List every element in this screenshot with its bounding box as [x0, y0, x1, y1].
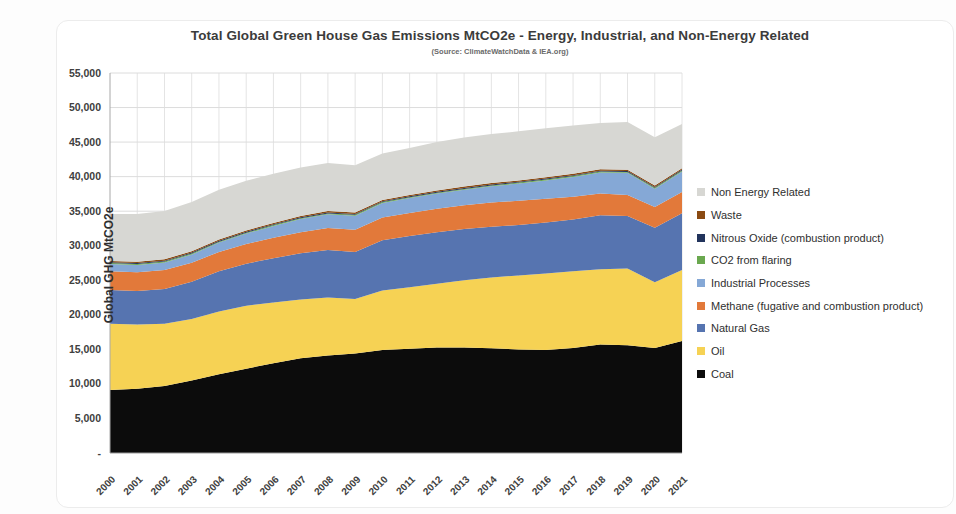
- y-axis-title: Global GHG MtCO2e: [102, 165, 116, 365]
- x-tick-label: 2012: [421, 473, 445, 497]
- legend-label: Oil: [711, 345, 724, 357]
- x-tick-label: 2013: [448, 473, 472, 497]
- legend-swatch-icon: [697, 234, 705, 242]
- legend-swatch-icon: [697, 347, 705, 355]
- y-tick-label: 35,000: [69, 205, 101, 217]
- legend-label: Coal: [711, 368, 734, 380]
- x-tick-label: 2016: [530, 473, 554, 497]
- x-tick-label: 2019: [611, 473, 635, 497]
- legend-swatch-icon: [697, 302, 705, 310]
- y-tick-label: 25,000: [69, 274, 101, 286]
- x-tick-label: 2020: [639, 473, 663, 497]
- legend-label: Industrial Processes: [711, 277, 810, 289]
- legend-swatch-icon: [697, 370, 705, 378]
- legend-swatch-icon: [697, 279, 705, 287]
- legend-label: Non Energy Related: [711, 186, 810, 198]
- x-tick-label: 2010: [366, 473, 390, 497]
- y-tick-label: 45,000: [69, 136, 101, 148]
- x-tick-label: 2002: [148, 473, 172, 497]
- legend-label: Waste: [711, 209, 742, 221]
- x-tick-label: 2007: [285, 473, 309, 497]
- chart-subtitle: (Source: ClimateWatchData & IEA.org): [110, 47, 890, 56]
- x-tick-label: 2014: [475, 473, 499, 497]
- x-tick-label: 2008: [312, 473, 336, 497]
- y-tick-label: 40,000: [69, 170, 101, 182]
- y-tick-label: 15,000: [69, 343, 101, 355]
- chart-title: Total Global Green House Gas Emissions M…: [110, 28, 890, 43]
- x-tick-label: 2018: [584, 473, 608, 497]
- legend-label: CO2 from flaring: [711, 254, 792, 266]
- y-tick-label: 20,000: [69, 308, 101, 320]
- legend-label: Nitrous Oxide (combustion product): [711, 232, 884, 244]
- legend-item-nitrous-oxide-combustion-product: Nitrous Oxide (combustion product): [697, 226, 923, 249]
- y-tick-label: -: [98, 447, 102, 459]
- legend-item-co2-from-flaring: CO2 from flaring: [697, 249, 923, 272]
- x-tick-label: 2003: [176, 473, 200, 497]
- legend-item-waste: Waste: [697, 204, 923, 227]
- x-tick-label: 2000: [94, 473, 118, 497]
- x-tick-label: 2001: [121, 473, 145, 497]
- x-tick-label: 2017: [557, 473, 581, 497]
- y-tick-label: 30,000: [69, 239, 101, 251]
- y-tick-label: 50,000: [69, 101, 101, 113]
- legend-label: Methane (fugative and combustion product…: [711, 300, 923, 312]
- legend-swatch-icon: [697, 188, 705, 196]
- legend-swatch-icon: [697, 256, 705, 264]
- legend-item-natural-gas: Natural Gas: [697, 317, 923, 340]
- x-tick-label: 2006: [257, 473, 281, 497]
- x-tick-label: 2009: [339, 473, 363, 497]
- x-tick-label: 2015: [502, 473, 526, 497]
- legend-item-oil: Oil: [697, 340, 923, 363]
- x-tick-label: 2011: [394, 473, 417, 496]
- x-tick-label: 2021: [666, 473, 690, 497]
- x-tick-label: 2004: [203, 473, 227, 497]
- legend-item-non-energy-related: Non Energy Related: [697, 181, 923, 204]
- y-tick-label: 55,000: [69, 67, 101, 79]
- y-tick-label: 10,000: [69, 377, 101, 389]
- legend-swatch-icon: [697, 324, 705, 332]
- x-tick-label: 2005: [230, 473, 254, 497]
- legend-swatch-icon: [697, 211, 705, 219]
- legend-item-coal: Coal: [697, 363, 923, 386]
- y-tick-label: 5,000: [75, 412, 101, 424]
- chart-image: -5,00010,00015,00020,00025,00030,00035,0…: [0, 0, 956, 514]
- legend-item-methane-fugative-and-combustion-product: Methane (fugative and combustion product…: [697, 294, 923, 317]
- legend: Non Energy RelatedWasteNitrous Oxide (co…: [697, 181, 923, 385]
- legend-item-industrial-processes: Industrial Processes: [697, 272, 923, 295]
- legend-label: Natural Gas: [711, 322, 770, 334]
